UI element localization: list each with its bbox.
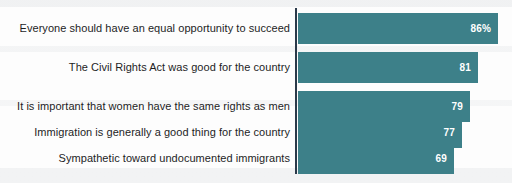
bar-segment[interactable]: 81 [298,52,478,83]
bar-segment[interactable]: 86% [298,13,498,44]
category-label: Everyone should have an equal opportunit… [20,13,290,44]
bar-chart-figure: Everyone should have an equal opportunit… [0,0,512,183]
chart-row: Everyone should have an equal opportunit… [0,13,512,44]
bar-segment[interactable]: 69 [298,143,454,174]
chart-row: The Civil Rights Act was good for the co… [0,52,512,83]
category-label: The Civil Rights Act was good for the co… [69,52,290,83]
chart-plot-area: Everyone should have an equal opportunit… [0,0,512,183]
category-label: Sympathetic toward undocumented immigran… [59,143,290,174]
chart-row: Sympathetic toward undocumented immigran… [0,143,512,174]
bar-value-label: 69 [435,154,454,164]
bar-value-label: 79 [451,102,470,112]
bar-value-label: 77 [443,128,462,138]
bar-value-label: 81 [459,63,478,73]
bar-value-label: 86% [470,24,498,34]
